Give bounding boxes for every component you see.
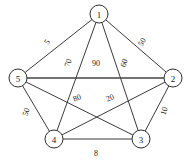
graph-node-1[interactable]: 1 <box>90 5 108 23</box>
graph-edge-1-2 <box>106 20 166 72</box>
graph-edge-1-5 <box>25 20 92 73</box>
node-label-1: 1 <box>97 10 102 20</box>
graph-edge-5-3 <box>26 82 133 135</box>
edge-weight-2-3: 10 <box>158 106 169 116</box>
edge-weight-5-2: 90 <box>92 59 100 68</box>
edge-weight-5-3: 80 <box>72 92 83 103</box>
graph-canvas: 12345 550706090508020108 <box>0 0 190 164</box>
graph-edge-4-2 <box>62 82 165 135</box>
edge-weight-1-2: 50 <box>136 36 148 48</box>
node-label-3: 3 <box>139 135 144 145</box>
node-label-5: 5 <box>16 74 21 84</box>
nodes-layer: 12345 <box>9 5 182 148</box>
edge-weight-1-3: 60 <box>119 58 130 68</box>
node-label-4: 4 <box>52 135 57 145</box>
graph-node-3[interactable]: 3 <box>132 130 150 148</box>
edge-weight-4-3: 8 <box>94 149 98 158</box>
graph-node-4[interactable]: 4 <box>45 130 63 148</box>
node-label-2: 2 <box>171 74 176 84</box>
graph-figure: 12345 550706090508020108 <box>0 0 190 164</box>
edge-weight-5-4: 50 <box>20 107 31 117</box>
edge-weight-1-4: 70 <box>62 58 73 68</box>
graph-node-2[interactable]: 2 <box>164 69 182 87</box>
graph-node-5[interactable]: 5 <box>9 69 27 87</box>
edges-layer <box>23 20 169 139</box>
graph-edge-1-3 <box>102 23 138 131</box>
edge-weight-4-2: 20 <box>105 92 116 103</box>
edge-weight-1-5: 5 <box>42 38 52 46</box>
